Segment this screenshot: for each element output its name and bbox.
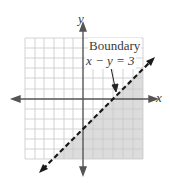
boundary-title: Boundary bbox=[88, 38, 141, 54]
arrowhead-icon bbox=[39, 164, 48, 173]
y-axis-label: y bbox=[78, 11, 84, 27]
inequality-graph: y x Boundary x − y = 3 bbox=[0, 0, 170, 187]
label-pointer-arrow bbox=[111, 68, 118, 92]
graph-canvas bbox=[0, 0, 170, 187]
x-axis-label: x bbox=[156, 90, 162, 106]
boundary-equation: x − y = 3 bbox=[85, 53, 136, 69]
